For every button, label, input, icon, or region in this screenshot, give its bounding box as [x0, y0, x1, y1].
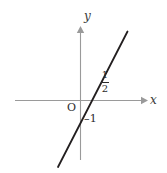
x-axis-label: x — [150, 94, 157, 106]
y-axis-label: y — [84, 10, 91, 22]
fraction-denominator: 2 — [101, 84, 109, 95]
graph-canvas — [0, 0, 167, 173]
x-axis-arrowhead — [141, 97, 148, 104]
origin-label: O — [67, 102, 76, 113]
fraction-numerator: 1 — [101, 70, 109, 81]
y-axis-arrowhead — [77, 26, 84, 33]
plotted-line — [58, 32, 128, 168]
x-intercept-label: 1 2 — [97, 70, 113, 94]
linear-function-graph: y x O –1 1 2 — [0, 0, 167, 173]
y-axis — [77, 26, 84, 160]
y-intercept-label: –1 — [84, 113, 97, 124]
fraction-one-half: 1 2 — [101, 70, 109, 94]
x-axis — [15, 97, 148, 104]
